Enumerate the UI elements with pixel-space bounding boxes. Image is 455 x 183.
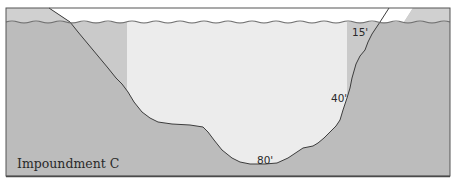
depth-label-15: 15' xyxy=(352,26,368,38)
impoundment-title: Impoundment C xyxy=(17,156,119,171)
impoundment-diagram: 15' 40' 80' Impoundment C xyxy=(0,0,455,183)
air-region xyxy=(49,8,413,22)
depth-label-80: 80' xyxy=(257,154,273,166)
depth-label-40: 40' xyxy=(331,92,347,104)
